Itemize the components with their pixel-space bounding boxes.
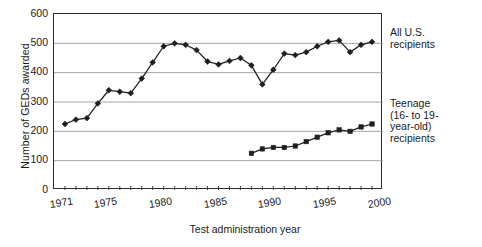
x-tick-label-1985: 1985 <box>203 194 228 210</box>
x-tick-label-2000: 2000 <box>367 194 392 210</box>
x-tick-label-1980: 1980 <box>148 194 173 210</box>
annotation-teen-line1: Teenage <box>390 98 438 110</box>
annotation-teenage-recipients: Teenage (16- to 19- year-old) recipients <box>390 98 438 144</box>
x-axis-title: Test administration year <box>160 223 330 235</box>
x-tick-label-1990: 1990 <box>257 194 282 210</box>
annotation-all-line1: All U.S. <box>390 27 435 39</box>
annotation-all-line2: recipients <box>390 39 435 51</box>
x-tick-label-1971: 1971 <box>49 194 74 210</box>
annotation-all-us-recipients: All U.S. recipients <box>390 27 435 50</box>
ged-line-chart: Number of GEDs awarded 60050040030020010… <box>0 0 482 247</box>
x-tick-label-1995: 1995 <box>312 194 337 210</box>
x-tick-label-1975: 1975 <box>93 194 118 210</box>
annotation-teen-line4: recipients <box>390 133 438 145</box>
